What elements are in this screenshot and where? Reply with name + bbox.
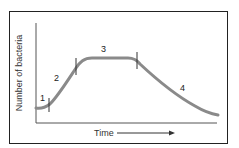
x-axis-label: Time xyxy=(94,128,114,138)
y-axis-label: Number of bacteria xyxy=(14,35,24,112)
phase-label-2: 2 xyxy=(54,74,59,83)
growth-curve-plot xyxy=(0,0,239,148)
growth-curve xyxy=(36,58,218,115)
time-arrow-head-icon xyxy=(169,131,175,136)
phase-label-1: 1 xyxy=(40,94,45,103)
phase-label-4: 4 xyxy=(180,84,185,93)
phase-label-3: 3 xyxy=(101,45,106,54)
